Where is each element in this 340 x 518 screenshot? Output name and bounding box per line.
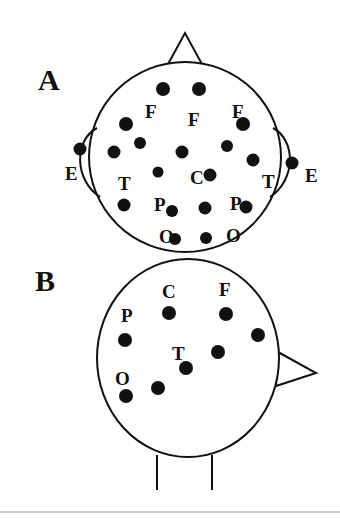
electrode-dot-left-reference: [74, 143, 87, 156]
electrode-dot: [219, 307, 233, 321]
electrode-dot: [166, 205, 178, 217]
electrode-dot: [204, 169, 217, 182]
electrode-dot: [192, 82, 206, 96]
electrode-dot: [119, 117, 133, 131]
site-label-t: T: [172, 343, 185, 364]
electrode-dot: [176, 146, 189, 159]
electrode-dot: [247, 154, 260, 167]
electrode-dot: [134, 137, 146, 149]
site-label-f-mid: F: [188, 109, 200, 130]
eeg-montage-figure: A F F: [0, 0, 340, 518]
electrode-dot: [118, 199, 131, 212]
site-label-c: C: [162, 281, 176, 302]
site-label-t-right: T: [262, 171, 275, 192]
site-label-f-left: F: [145, 101, 157, 122]
site-label-o-left: O: [159, 226, 174, 247]
site-label-e-right: E: [305, 165, 318, 186]
electrode-dot: [162, 306, 176, 320]
site-label-f: F: [219, 279, 231, 300]
electrode-dot: [156, 82, 170, 96]
panel-b-head-outline: [97, 259, 279, 457]
electrode-dot: [118, 333, 132, 347]
electrode-dot: [151, 381, 165, 395]
site-label-t-left: T: [118, 173, 131, 194]
site-label-o-right: O: [226, 225, 241, 246]
electrode-dot: [211, 345, 225, 359]
electrode-dot: [153, 167, 164, 178]
electrode-dot: [199, 202, 212, 215]
site-label-p-right: P: [230, 193, 242, 214]
site-label-p: P: [121, 305, 133, 326]
electrode-dot: [119, 389, 133, 403]
electrode-dot: [251, 328, 265, 342]
electrode-dot: [200, 232, 212, 244]
site-label-c: C: [190, 167, 204, 188]
site-label-o: O: [115, 368, 130, 389]
site-label-e-left: E: [65, 163, 78, 184]
panel-b-letter: B: [35, 264, 55, 297]
site-label-f-right: F: [232, 101, 244, 122]
electrode-dot: [108, 146, 121, 159]
electrode-dot-right-reference: [286, 157, 299, 170]
panel-a-letter: A: [38, 63, 60, 96]
site-label-p-left: P: [154, 194, 166, 215]
electrode-dot: [221, 140, 233, 152]
